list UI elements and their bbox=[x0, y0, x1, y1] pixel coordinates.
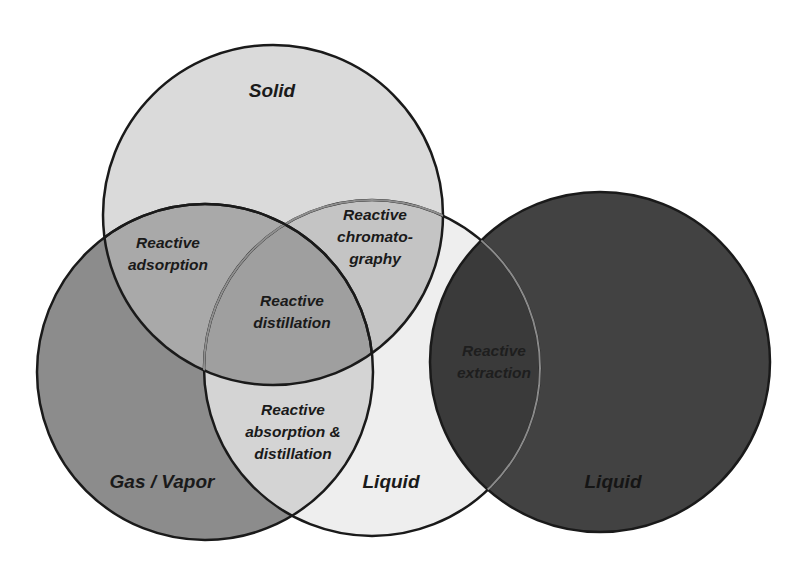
solid-label: Solid bbox=[249, 80, 296, 101]
reactive-extraction-label-line2: extraction bbox=[457, 364, 531, 381]
liquid-label-dark: Liquid bbox=[585, 471, 642, 492]
reactive-distillation-label-line1: Reactive bbox=[260, 292, 324, 309]
reactive-absorption-label-line1: Reactive bbox=[261, 401, 325, 418]
reactive-absorption-label-line2: absorption & bbox=[245, 423, 341, 440]
reactive-absorption-label-line3: distillation bbox=[254, 445, 332, 462]
reactive-chromatography-label-line1: Reactive bbox=[343, 206, 407, 223]
reactive-chromatography-label-line2: chromato- bbox=[337, 228, 413, 245]
reactive-adsorption-label-line1: Reactive bbox=[136, 234, 200, 251]
reactive-extraction-label-line1: Reactive bbox=[462, 342, 526, 359]
liquid-label-light: Liquid bbox=[363, 471, 420, 492]
reactive-chromatography-label-line3: graphy bbox=[348, 250, 402, 267]
reactive-adsorption-label-line2: adsorption bbox=[128, 256, 208, 273]
reactive-distillation-label-line2: distillation bbox=[253, 314, 331, 331]
venn-diagram: Solid Reactive adsorption Reactive disti… bbox=[0, 0, 800, 569]
gas-vapor-label: Gas / Vapor bbox=[110, 471, 216, 492]
